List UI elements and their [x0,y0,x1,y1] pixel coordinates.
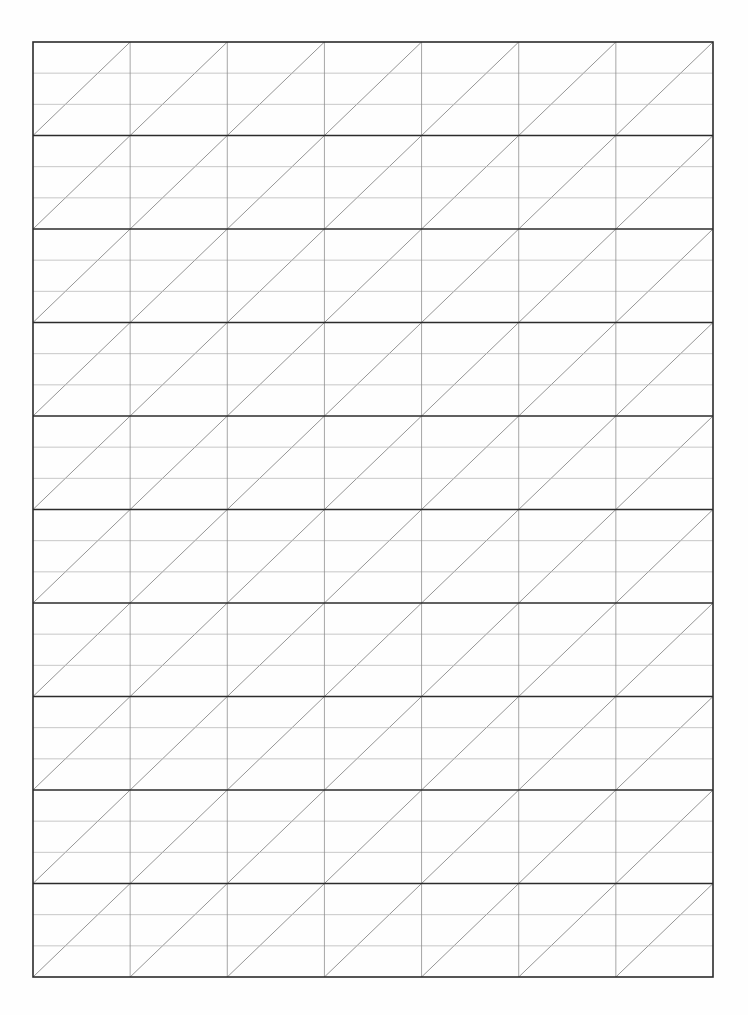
diagonal-slant-line [227,697,324,791]
diagonal-slant-line [324,323,421,417]
diagonal-slant-line [519,510,616,604]
diagonal-slant-line [422,229,519,323]
slant-guide-grid [0,0,748,1015]
diagonal-slant-line [324,697,421,791]
diagonal-slant-line [422,323,519,417]
diagonal-slant-line [422,42,519,136]
diagonal-slant-line [324,884,421,978]
diagonal-slant-line [130,603,227,697]
diagonal-slant-line [616,790,713,884]
diagonal-slant-line [324,136,421,230]
diagonal-slant-line [519,697,616,791]
diagonal-slant-line [324,229,421,323]
diagonal-slant-line [324,603,421,697]
diagonal-slant-line [33,697,130,791]
diagonal-slant-line [33,416,130,510]
diagonal-slant-line [519,884,616,978]
diagonal-slant-line [33,42,130,136]
diagonal-slant-line [616,884,713,978]
diagonal-slant-line [33,229,130,323]
diagonal-slant-line [616,510,713,604]
diagonal-slant-line [130,136,227,230]
diagonal-slant-line [616,229,713,323]
diagonal-slant-line [519,229,616,323]
diagonal-slant-line [422,603,519,697]
diagonal-slant-line [130,697,227,791]
diagonal-slant-line [227,884,324,978]
diagonal-slant-line [616,323,713,417]
diagonal-slant-line [519,416,616,510]
diagonal-slant-line [130,323,227,417]
diagonal-slant-line [519,42,616,136]
diagonal-slant-line [324,416,421,510]
diagonal-slant-line [519,323,616,417]
diagonal-slant-line [616,136,713,230]
diagonal-slant-line [422,510,519,604]
diagonal-slant-line [324,42,421,136]
diagonal-slant-line [422,884,519,978]
grid-major-horizontal-lines [33,136,713,884]
diagonal-slant-line [33,510,130,604]
diagonal-slant-line [616,42,713,136]
diagonal-slant-line [227,136,324,230]
diagonal-slant-line [616,416,713,510]
diagonal-slant-line [227,229,324,323]
diagonal-slant-line [227,323,324,417]
diagonal-slant-line [227,42,324,136]
diagonal-slant-line [130,790,227,884]
diagonal-slant-line [422,416,519,510]
practice-sheet-page [0,0,748,1015]
diagonal-slant-line [130,510,227,604]
diagonal-slant-line [130,229,227,323]
diagonal-slant-line [130,884,227,978]
diagonal-slant-line [227,416,324,510]
diagonal-slant-line [227,790,324,884]
diagonal-slant-line [422,790,519,884]
diagonal-slant-line [324,790,421,884]
diagonal-slant-line [519,603,616,697]
diagonal-slant-line [33,790,130,884]
diagonal-slant-line [519,790,616,884]
diagonal-slant-line [422,697,519,791]
diagonal-slant-line [130,42,227,136]
diagonal-slant-line [616,697,713,791]
diagonal-slant-line [227,603,324,697]
diagonal-slant-line [130,416,227,510]
diagonal-slant-line [324,510,421,604]
diagonal-slant-line [227,510,324,604]
diagonal-slant-line [519,136,616,230]
diagonal-slant-line [33,323,130,417]
diagonal-slant-line [616,603,713,697]
diagonal-slant-line [33,884,130,978]
diagonal-slant-line [33,603,130,697]
diagonal-slant-line [422,136,519,230]
diagonal-slant-line [33,136,130,230]
